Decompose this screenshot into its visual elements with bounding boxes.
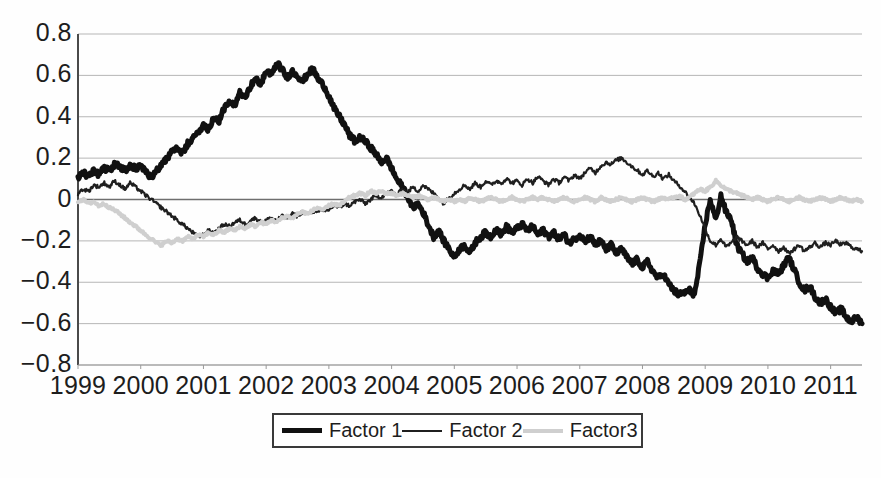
chart-figure: 0.80.60.40.20−0.2−0.4−0.6−0.8 1999200020… (0, 0, 881, 478)
y-axis-tick-label: −0.6 (6, 308, 72, 337)
legend-swatch-factor-3-icon (523, 429, 563, 433)
y-axis-tick-label: −0.4 (6, 266, 72, 295)
legend-item-factor-1[interactable]: Factor 1 (282, 419, 402, 442)
y-axis-tick-label: 0 (6, 184, 72, 213)
x-axis-tick-label: 2011 (791, 371, 871, 400)
chart-legend[interactable]: Factor 1 Factor 2 Factor3 (272, 413, 643, 448)
y-axis-tick-label: 0.6 (6, 59, 72, 88)
legend-label-factor-1: Factor 1 (329, 419, 402, 442)
y-axis-tick-label: 0.2 (6, 142, 72, 171)
series-lines (78, 63, 862, 324)
legend-item-factor-2[interactable]: Factor 2 (402, 419, 522, 442)
y-axis-tick-label: 0.8 (6, 18, 72, 47)
legend-swatch-factor-1-icon (282, 428, 322, 433)
legend-item-factor-3[interactable]: Factor3 (523, 419, 638, 442)
y-axis-tick-label: −0.2 (6, 225, 72, 254)
y-axis: 0.80.60.40.20−0.2−0.4−0.6−0.8 (0, 0, 72, 478)
legend-label-factor-3: Factor3 (570, 419, 638, 442)
legend-swatch-factor-2-icon (402, 430, 442, 432)
chart-plot-area (0, 0, 881, 478)
legend-label-factor-2: Factor 2 (449, 419, 522, 442)
y-axis-tick-label: 0.4 (6, 101, 72, 130)
